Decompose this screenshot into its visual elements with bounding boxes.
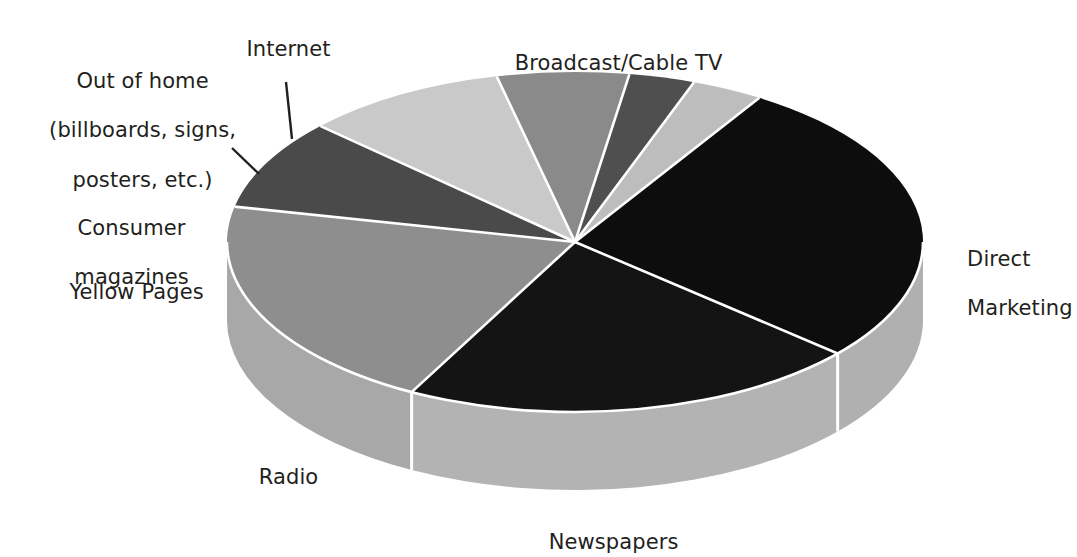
- slice-label-out-of-home-line1: Out of home: [76, 69, 208, 93]
- pie-chart: Broadcast/Cable TV Direct Marketing News…: [0, 0, 1077, 557]
- slice-label-broadcast-cable-tv-text: Broadcast/Cable TV: [515, 51, 723, 75]
- slice-label-direct-marketing-line2: Marketing: [967, 296, 1073, 320]
- slice-label-radio: Radio: [195, 440, 355, 514]
- slice-label-out-of-home-line3: posters, etc.): [72, 168, 212, 192]
- slice-label-newspapers: Newspapers: [470, 505, 730, 557]
- slice-label-consumer-magazines-line1: Consumer: [78, 216, 186, 240]
- leader-line-internet: [286, 82, 292, 139]
- slice-label-radio-text: Radio: [259, 465, 319, 489]
- slice-label-direct-marketing-line1: Direct: [967, 247, 1030, 271]
- slice-label-internet-text: Internet: [246, 37, 330, 61]
- slice-label-out-of-home-line2: (billboards, signs,: [49, 118, 236, 142]
- slice-label-internet: Internet: [205, 12, 345, 86]
- slice-label-newspapers-text: Newspapers: [549, 530, 679, 554]
- slice-label-broadcast-cable-tv: Broadcast/Cable TV: [455, 26, 755, 100]
- slice-label-direct-marketing: Direct Marketing: [940, 222, 1070, 346]
- slice-label-consumer-magazines-line2: magazines: [74, 265, 188, 289]
